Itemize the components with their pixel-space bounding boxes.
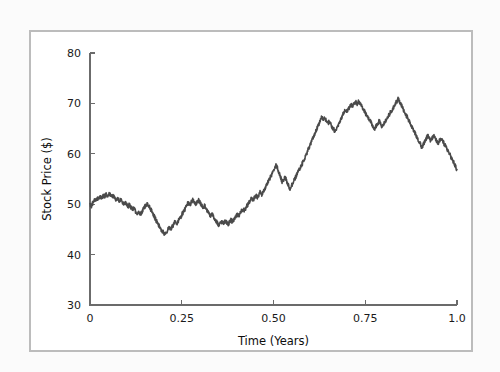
x-tick-label: 0.75 — [353, 312, 378, 325]
axis-spines — [90, 53, 457, 305]
figure-frame: 30405060708000.250.500.751.0Time (Years)… — [29, 30, 473, 352]
y-tick-label: 70 — [67, 97, 81, 110]
y-tick-label: 50 — [67, 198, 81, 211]
x-tick-label: 0 — [87, 312, 94, 325]
x-tick-label: 1.0 — [448, 312, 466, 325]
y-tick-label: 30 — [67, 299, 81, 312]
axes — [90, 53, 457, 305]
y-tick-label: 80 — [67, 47, 81, 60]
y-tick-label: 60 — [67, 148, 81, 161]
series-line — [90, 97, 457, 235]
data-series — [90, 97, 457, 235]
stock-price-line-chart: 30405060708000.250.500.751.0Time (Years)… — [31, 32, 471, 350]
x-tick-label: 0.25 — [170, 312, 195, 325]
x-tick-label: 0.50 — [261, 312, 286, 325]
x-axis-title: Time (Years) — [237, 334, 309, 348]
y-axis-title: Stock Price ($) — [40, 137, 54, 220]
y-tick-label: 40 — [67, 249, 81, 262]
